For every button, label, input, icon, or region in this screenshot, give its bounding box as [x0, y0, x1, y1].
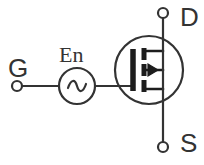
drain-terminal-node	[158, 8, 168, 18]
gate-terminal-label: G	[8, 55, 28, 81]
circuit-diagram: G D S En	[0, 0, 204, 165]
source-terminal-node	[158, 142, 168, 152]
ac-source-label: En	[59, 44, 83, 66]
drain-terminal-label: D	[180, 4, 199, 30]
mosfet-body-arrow-icon	[148, 64, 158, 76]
schematic-canvas	[0, 0, 204, 165]
source-terminal-label: S	[180, 130, 197, 156]
